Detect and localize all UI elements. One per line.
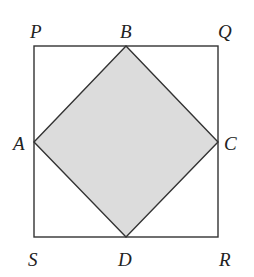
shaded-square-abcd — [34, 46, 218, 237]
label-p: P — [29, 21, 42, 42]
label-b: B — [120, 21, 132, 42]
label-a: A — [11, 133, 25, 154]
label-d: D — [117, 249, 132, 270]
geometry-diagram: P B Q A C S D R — [0, 0, 254, 277]
label-c: C — [224, 133, 237, 154]
label-r: R — [218, 249, 231, 270]
label-q: Q — [218, 21, 232, 42]
label-s: S — [28, 249, 38, 270]
